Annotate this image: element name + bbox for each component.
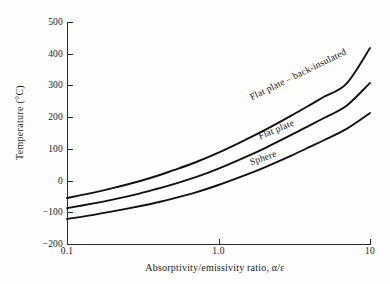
y-tick-label: 200 [48, 112, 63, 122]
y-tick-mark [68, 181, 73, 182]
chart-figure: −200−1000100200300400500 0.11.010 Temper… [0, 0, 390, 284]
y-tick-mark [68, 149, 73, 150]
y-tick-mark [68, 54, 73, 55]
x-axis-title: Absorptivity/emissivity ratio, α/ε [0, 262, 390, 273]
y-tick-mark [68, 85, 73, 86]
x-tick-mark [67, 239, 68, 244]
series-label-flat-plate-back-insulated: Flat plate – back-insulated [248, 47, 348, 103]
curve-sphere [67, 113, 370, 219]
series-label-flat-plate: Flat plate [257, 118, 296, 142]
y-tick-mark [68, 117, 73, 118]
x-tick-label: 10 [365, 246, 375, 257]
series-label-sphere: Sphere [248, 149, 278, 168]
y-tick-label: 500 [48, 17, 63, 27]
y-tick-mark [68, 22, 73, 23]
y-tick-label: −100 [43, 207, 63, 217]
x-tick-mark [370, 239, 371, 244]
x-axis-line [67, 244, 371, 245]
y-tick-label: 0 [58, 176, 63, 186]
y-tick-label: 100 [48, 144, 63, 154]
curve-flat-plate [67, 83, 370, 208]
curve-flat-plate-back-insulated [67, 48, 370, 198]
y-tick-label: 400 [48, 49, 63, 59]
x-tick-label: 0.1 [61, 246, 73, 257]
y-axis-title: Temperature (°C) [14, 48, 25, 198]
x-tick-mark [219, 239, 220, 244]
y-tick-mark [68, 212, 73, 213]
y-tick-mark [68, 244, 73, 245]
y-tick-label: 300 [48, 80, 63, 90]
x-tick-label: 1.0 [212, 246, 224, 257]
